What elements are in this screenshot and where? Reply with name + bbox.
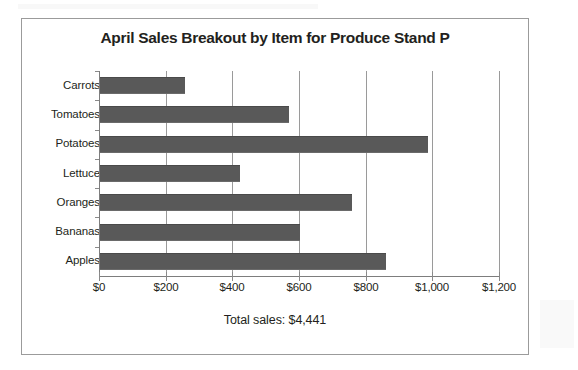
y-axis-label-bananas: Bananas <box>22 225 100 238</box>
bar-tomatoes <box>100 106 289 123</box>
page-canvas: April Sales Breakout by Item for Produce… <box>0 0 578 370</box>
y-axis-tick-top <box>95 71 99 72</box>
y-axis-tick <box>95 247 99 248</box>
x-axis-tick-label: $600 <box>287 281 312 293</box>
bar-oranges <box>100 194 352 211</box>
scan-artifact-right <box>540 300 574 348</box>
plot-area <box>99 71 499 276</box>
scan-artifact-top <box>18 4 318 9</box>
y-axis-tick <box>95 159 99 160</box>
bar-bananas <box>100 224 300 241</box>
bar-carrots <box>100 77 185 94</box>
y-axis-label-lettuce: Lettuce <box>22 167 100 180</box>
gridline <box>299 71 300 276</box>
total-sales-annotation: Total sales: $4,441 <box>22 313 528 327</box>
y-axis-tick <box>95 130 99 131</box>
chart-container: April Sales Breakout by Item for Produce… <box>21 18 529 355</box>
x-axis-tick <box>166 272 167 281</box>
bar-apples <box>100 253 386 270</box>
x-axis-tick-label: $800 <box>354 281 379 293</box>
y-axis-tick <box>95 100 99 101</box>
y-axis-label-tomatoes: Tomatoes <box>22 108 100 121</box>
x-axis-tick <box>499 272 500 281</box>
y-axis-category-labels: CarrotsTomatoesPotatoesLettuceOrangesBan… <box>22 71 100 276</box>
x-axis-tick-label: $400 <box>220 281 245 293</box>
x-axis-tick <box>299 272 300 281</box>
bar-potatoes <box>100 136 428 153</box>
x-axis-tick-label: $1,000 <box>415 281 449 293</box>
bar-lettuce <box>100 165 240 182</box>
gridline <box>499 71 500 276</box>
x-axis-tick <box>432 272 433 281</box>
x-axis-tick-label: $1,200 <box>482 281 516 293</box>
x-axis-tick <box>232 272 233 281</box>
x-axis-tick-label: $200 <box>154 281 179 293</box>
plot-wrapper: CarrotsTomatoesPotatoesLettuceOrangesBan… <box>22 53 530 283</box>
chart-title: April Sales Breakout by Item for Produce… <box>22 29 528 47</box>
x-axis-tick <box>99 272 100 281</box>
x-axis-tick-label: $0 <box>93 281 105 293</box>
x-axis-tick-labels: $0$200$400$600$800$1,000$1,200 <box>99 281 499 301</box>
gridline <box>432 71 433 276</box>
y-axis-label-apples: Apples <box>22 254 100 267</box>
x-axis-tick <box>366 272 367 281</box>
y-axis-tick <box>95 188 99 189</box>
y-axis-label-carrots: Carrots <box>22 79 100 92</box>
y-axis-tick <box>95 217 99 218</box>
y-axis-label-oranges: Oranges <box>22 196 100 209</box>
y-axis-label-potatoes: Potatoes <box>22 137 100 150</box>
gridline <box>366 71 367 276</box>
